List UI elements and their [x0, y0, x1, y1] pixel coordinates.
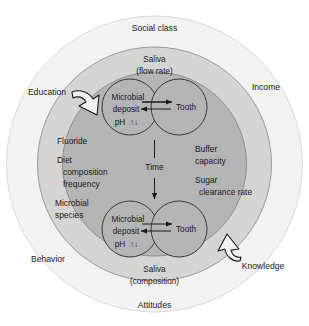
middle-label-fluoride: Fluoride — [57, 136, 88, 146]
middle-label-diet-composition: composition — [63, 167, 108, 177]
outer-label-social-class: Social class — [132, 23, 177, 33]
middle-label-diet: Diet — [57, 155, 73, 165]
middle-label-diet-frequency: frequency — [63, 179, 101, 189]
time-axis-label: Time — [145, 162, 164, 172]
top-microbial-line2: deposit — [113, 105, 140, 114]
outer-label-income: Income — [252, 82, 280, 92]
middle-label-sugar: Sugar — [195, 175, 218, 185]
outer-label-education: Education — [28, 87, 66, 97]
core-bottom-caption-line2: (composition) — [130, 277, 179, 286]
core-bottom-caption-line1: Saliva — [143, 265, 166, 274]
top-microbial-line1: Microbial — [112, 93, 145, 102]
top-tooth-label: Tooth — [176, 103, 196, 112]
core-top-caption-line1: Saliva — [143, 55, 166, 64]
middle-label-buffer: Buffer — [195, 144, 217, 154]
bottom-ph-label: pH — [115, 240, 126, 249]
outer-label-attitudes: Attitudes — [138, 300, 171, 310]
outer-label-behavior: Behavior — [31, 254, 65, 264]
top-ph-updown-icon: ↑↓ — [130, 118, 138, 127]
outer-label-knowledge: Knowledge — [242, 261, 285, 271]
bottom-ph-updown-icon: ↑↓ — [130, 240, 138, 249]
middle-label-microbial-species: species — [55, 210, 83, 220]
top-ph-label: pH — [115, 118, 126, 127]
middle-label-microbial: Microbial — [55, 198, 89, 208]
diagram-canvas: Social class Income Knowledge Attitudes … — [0, 0, 309, 326]
middle-label-buffer-capacity: capacity — [195, 156, 227, 166]
middle-label-sugar-clearance-rate: clearance rate — [199, 187, 252, 197]
bottom-microbial-line2: deposit — [113, 227, 140, 236]
core-top-caption-line2: (flow rate) — [136, 67, 173, 76]
bottom-microbial-line1: Microbial — [112, 215, 145, 224]
bottom-tooth-label: Tooth — [176, 225, 196, 234]
